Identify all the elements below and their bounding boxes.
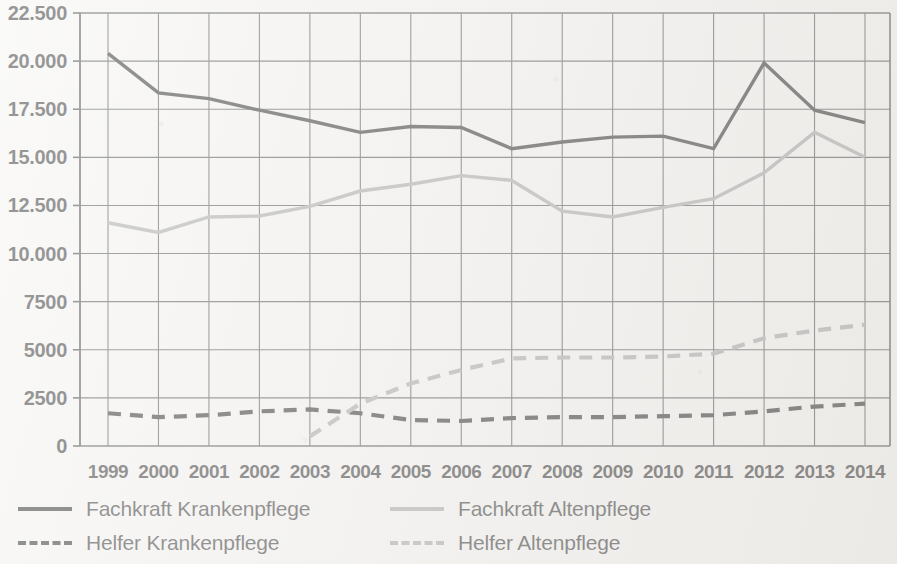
legend-item[interactable]: Fachkraft Krankenpflege	[18, 498, 310, 519]
y-tick-label: 20.000	[8, 51, 67, 71]
y-tick-label: 12.500	[8, 195, 67, 215]
series-group	[108, 53, 865, 436]
y-tick-label: 7500	[24, 292, 67, 312]
series-line-0	[108, 53, 865, 148]
legend-swatch-solid-line-icon	[390, 501, 444, 517]
x-tick-label: 2014	[835, 462, 895, 481]
y-tick-label: 17.500	[8, 99, 67, 119]
legend-item[interactable]: Fachkraft Altenpflege	[390, 498, 651, 519]
series-line-2	[108, 404, 865, 421]
legend-item[interactable]: Helfer Altenpflege	[390, 532, 620, 553]
legend-item[interactable]: Helfer Krankenpflege	[18, 532, 279, 553]
series-line-1	[108, 132, 865, 232]
y-tick-label: 5000	[24, 340, 67, 360]
y-tick-label: 2500	[24, 388, 67, 408]
y-tick-label: 22.500	[8, 3, 67, 23]
legend-label: Helfer Krankenpflege	[86, 532, 279, 553]
line-chart: 025005000750010.00012.50015.00017.50020.…	[0, 0, 897, 564]
chart-legend: Fachkraft KrankenpflegeFachkraft Altenpf…	[0, 496, 897, 564]
grid-lines	[80, 13, 890, 446]
legend-label: Fachkraft Altenpflege	[458, 498, 651, 519]
y-axis-ticks	[73, 13, 80, 446]
legend-swatch-dashed-line-icon	[18, 535, 72, 551]
y-tick-label: 15.000	[8, 147, 67, 167]
legend-swatch-solid-line-icon	[18, 501, 72, 517]
y-tick-label: 10.000	[8, 244, 67, 264]
legend-label: Helfer Altenpflege	[458, 532, 620, 553]
legend-swatch-dashed-line-icon	[390, 535, 444, 551]
y-tick-label: 0	[56, 436, 67, 456]
legend-label: Fachkraft Krankenpflege	[86, 498, 310, 519]
